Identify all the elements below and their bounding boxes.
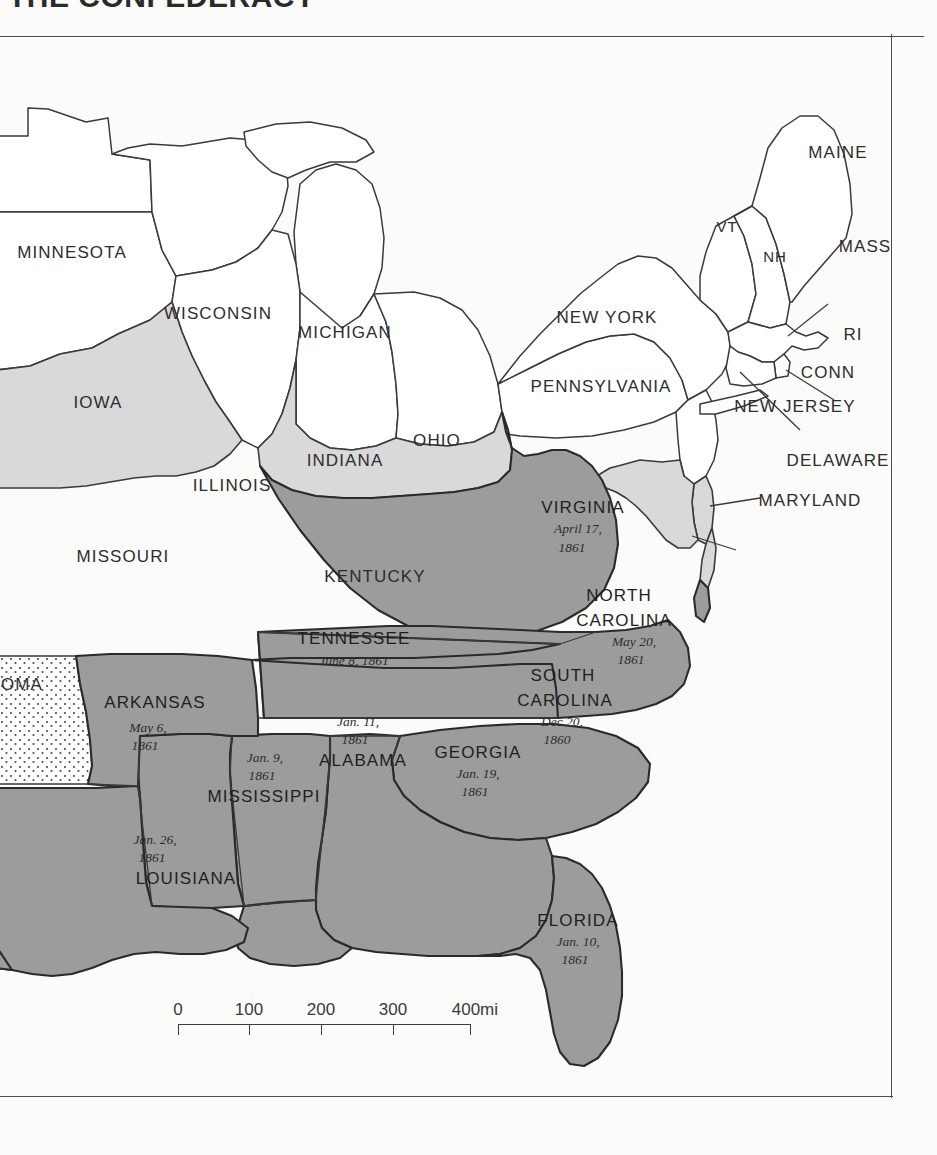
scale-tick-300: [393, 1024, 394, 1035]
label-new-hampshire: NH: [763, 248, 786, 265]
label-connecticut: CONN: [801, 363, 855, 382]
label-kentucky: KENTUCKY: [324, 567, 425, 586]
label-arkansas: ARKANSAS: [104, 693, 205, 712]
label-wisconsin: WISCONSIN: [164, 304, 272, 323]
scale-label-200: 200: [307, 1000, 335, 1020]
label-vermont: VT: [717, 218, 738, 235]
label-indiana: INDIANA: [307, 451, 384, 470]
label-south-carolina-line1: SOUTH: [531, 666, 596, 685]
date-north-carolina-line2: 1861: [618, 652, 645, 667]
label-virginia: VIRGINIA: [541, 498, 624, 517]
scale-label-0: 0: [173, 1000, 182, 1020]
label-louisiana: LOUISIANA: [136, 869, 237, 888]
label-delaware: DELAWARE: [787, 451, 890, 470]
label-new-york: NEW YORK: [556, 308, 657, 327]
scale-bar-line: [178, 1024, 471, 1025]
label-oklahoma: OMA: [1, 675, 43, 694]
label-missouri: MISSOURI: [77, 547, 170, 566]
label-florida: FLORIDA: [537, 911, 618, 930]
date-alabama-line2: 1861: [342, 732, 369, 747]
label-south-carolina-line2: CAROLINA: [517, 691, 613, 710]
label-massachusetts: MASS: [839, 237, 892, 256]
label-rhode-island: RI: [843, 325, 862, 344]
scale-tick-100: [249, 1024, 250, 1035]
scale-label-100: 100: [235, 1000, 263, 1020]
scale-tick-400: [470, 1024, 471, 1035]
date-florida-line1: Jan. 10,: [556, 934, 599, 949]
label-illinois: ILLINOIS: [193, 476, 272, 495]
date-virginia-line2: 1861: [559, 540, 586, 555]
label-tennessee: TENNESSEE: [298, 629, 411, 648]
label-north-carolina-line2: CAROLINA: [576, 611, 672, 630]
label-maine: MAINE: [808, 143, 867, 162]
scale-unit-label: mi: [480, 1000, 498, 1020]
map-svg: MINNESOTA WISCONSIN MICHIGAN IOWA ILLINO…: [0, 36, 893, 1096]
date-north-carolina-line1: May 20,: [611, 634, 656, 649]
date-mississippi-line2: 1861: [249, 768, 276, 783]
label-maryland: MARYLAND: [759, 491, 862, 510]
frame-rule-bottom: [0, 1096, 893, 1097]
date-mississippi-line1: Jan. 9,: [247, 750, 283, 765]
label-pennsylvania: PENNSYLVANIA: [530, 377, 671, 396]
scale-label-300: 300: [379, 1000, 407, 1020]
date-tennessee-line1: June 8, 1861: [319, 653, 388, 668]
date-arkansas-line1: May 6,: [128, 720, 167, 735]
label-iowa: IOWA: [73, 393, 122, 412]
date-georgia-line1: Jan. 19,: [456, 766, 499, 781]
date-south-carolina-line2: 1860: [544, 732, 571, 747]
leader-delaware: [710, 498, 760, 506]
label-new-jersey: NEW JERSEY: [734, 397, 856, 416]
label-alabama: ALABAMA: [319, 751, 407, 770]
date-louisiana-line2: 1861: [139, 850, 166, 865]
scale-tick-200: [321, 1024, 322, 1035]
feature-delmarva-virginia: [694, 580, 710, 622]
date-south-carolina-line1: Dec 20,: [540, 714, 583, 729]
map-figure: MINNESOTA WISCONSIN MICHIGAN IOWA ILLINO…: [0, 36, 893, 1096]
date-alabama-line1: Jan. 11,: [337, 714, 379, 729]
scale-label-400: 400: [452, 1000, 480, 1020]
date-florida-line2: 1861: [562, 952, 589, 967]
label-georgia: GEORGIA: [434, 743, 521, 762]
date-louisiana-line1: Jan. 26,: [133, 832, 176, 847]
leader-mass: [788, 304, 828, 336]
date-georgia-line2: 1861: [462, 784, 489, 799]
label-michigan: MICHIGAN: [298, 323, 392, 342]
scale-tick-0: [178, 1024, 179, 1035]
label-mississippi: MISSISSIPPI: [207, 787, 320, 806]
date-virginia-line1: April 17,: [553, 521, 602, 536]
page-title: THE CONFEDERACY: [8, 0, 316, 14]
date-arkansas-line2: 1861: [132, 738, 159, 753]
label-ohio: OHIO: [413, 431, 461, 450]
map-page: THE CONFEDERACY: [0, 0, 937, 1155]
label-minnesota: MINNESOTA: [17, 243, 127, 262]
label-north-carolina-line1: NORTH: [586, 586, 652, 605]
